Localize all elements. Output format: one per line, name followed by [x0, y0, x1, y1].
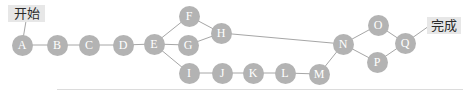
node-M: M — [309, 64, 330, 85]
flow-diagram: ABCDEFGHIJKLMNOPQ 开始 完成 — [0, 0, 463, 93]
node-F: F — [179, 6, 200, 27]
node-H: H — [211, 23, 232, 44]
node-J: J — [212, 63, 233, 84]
edge-lines-layer — [0, 0, 463, 93]
node-Q: Q — [395, 33, 416, 54]
node-E: E — [144, 34, 165, 55]
node-D: D — [113, 35, 134, 56]
node-N: N — [333, 34, 354, 55]
node-I: I — [179, 63, 200, 84]
start-label: 开始 — [8, 5, 45, 22]
node-B: B — [47, 35, 68, 56]
end-label: 完成 — [427, 17, 461, 34]
node-L: L — [275, 63, 296, 84]
edge-H-N — [221, 33, 343, 44]
node-K: K — [243, 63, 264, 84]
node-P: P — [367, 52, 388, 73]
node-C: C — [79, 35, 100, 56]
node-G: G — [178, 35, 199, 56]
node-A: A — [12, 35, 33, 56]
bottom-rule — [57, 89, 463, 90]
node-O: O — [368, 15, 389, 36]
